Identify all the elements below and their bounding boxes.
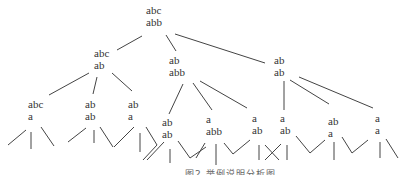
tree-node: abcab [94, 47, 109, 71]
tree-node-root: abcabb [146, 4, 162, 28]
node-top-label: ab [85, 98, 95, 110]
node-bottom-label: ab [274, 66, 284, 78]
figure-caption: 图2 举例说明分析图 [185, 167, 276, 175]
tree-node: aab [280, 112, 290, 136]
node-bottom-label: abb [169, 66, 185, 78]
tree-node: abab [162, 116, 172, 140]
tree-node: aab [252, 112, 262, 136]
node-bottom-label: abb [146, 16, 162, 28]
tree-node: aabb [206, 113, 222, 137]
node-bottom-label: abb [206, 125, 222, 137]
node-top-label: ab [328, 115, 338, 127]
tree-node: ababb [169, 54, 185, 78]
node-top-label: ab [162, 116, 172, 128]
node-bottom-label: a [128, 110, 133, 122]
node-top-label: ab [274, 54, 284, 66]
node-bottom-label: ab [162, 128, 172, 140]
node-top-label: abc [28, 98, 43, 110]
node-bottom-label: a [328, 127, 333, 139]
tree-node: abca [28, 98, 43, 122]
node-bottom-label: a [28, 110, 33, 122]
tree-edges [0, 0, 399, 175]
node-top-label: a [280, 112, 285, 124]
tree-node: aba [328, 115, 338, 139]
node-bottom-label: a [375, 124, 380, 136]
tree-node: abab [85, 98, 95, 122]
node-top-label: abc [146, 4, 161, 16]
node-bottom-label: ab [94, 59, 104, 71]
tree-node: aa [375, 112, 380, 136]
node-top-label: a [206, 113, 211, 125]
node-top-label: a [375, 112, 380, 124]
node-bottom-label: ab [252, 124, 262, 136]
node-top-label: a [252, 112, 257, 124]
node-bottom-label: ab [280, 124, 290, 136]
node-top-label: ab [169, 54, 179, 66]
tree-node: abab [274, 54, 284, 78]
tree-node: aba [128, 98, 138, 122]
node-top-label: ab [128, 98, 138, 110]
node-bottom-label: ab [85, 110, 95, 122]
node-top-label: abc [94, 47, 109, 59]
